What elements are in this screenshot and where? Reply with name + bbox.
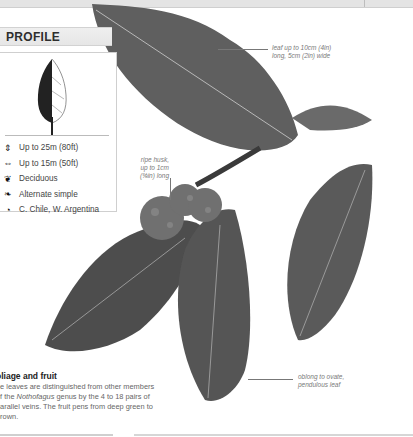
bottom-divider-left (0, 434, 113, 436)
leaf-small-right (292, 105, 372, 130)
height-icon: ⇕ (1, 143, 15, 153)
spread-icon: ⇔ (1, 158, 15, 168)
fact-deciduous: ❦Deciduous (0, 171, 115, 187)
annotation-husk: ripe husk, up to 1cm (⅜in) long (135, 156, 169, 180)
fact-text: Up to 25m (80ft) (19, 143, 78, 152)
leader-line-leaf-size (218, 49, 268, 50)
fact-text: Alternate simple (19, 190, 78, 199)
annotation-leaf-shape: oblong to ovate, pendulous leaf (298, 373, 344, 389)
annotation-line: up to 1cm (135, 164, 169, 172)
fact-text: C. Chile, W. Argentina (19, 205, 99, 214)
fact-range: ◔C. Chile, W. Argentina (0, 202, 115, 218)
fact-text: Deciduous (19, 174, 58, 183)
leaf-right (287, 164, 372, 340)
annotation-line: leaf up to 10cm (4in) (272, 44, 331, 52)
leader-line-husk (170, 178, 171, 200)
genus-name: Nothofagus (17, 392, 55, 401)
foliage-section: oliage and fruit he leaves are distingui… (0, 371, 156, 422)
foliage-title: oliage and fruit (0, 371, 156, 381)
annotation-line: (⅜in) long (135, 172, 169, 180)
fact-spread: ⇔Up to 15m (50ft) (0, 156, 115, 172)
deciduous-leaf-icon: ❦ (1, 174, 15, 184)
leaf-type-icon: ❧ (1, 189, 15, 199)
profile-header: PROFILE (0, 27, 112, 46)
leaf-top (92, 4, 298, 150)
leader-line-leaf-shape (248, 379, 293, 380)
tree-silhouette-icon (27, 57, 77, 135)
annotation-leaf-size: leaf up to 10cm (4in) long, 5cm (2in) wi… (272, 44, 331, 60)
annotation-line: pendulous leaf (298, 381, 344, 389)
bottom-divider-right (134, 434, 413, 436)
fact-height: ⇕Up to 25m (80ft) (0, 140, 115, 156)
profile-box: ⇕Up to 25m (80ft) ⇔Up to 15m (50ft) ❦Dec… (0, 52, 117, 212)
annotation-line: oblong to ovate, (298, 373, 344, 381)
foliage-body: he leaves are distinguished from other m… (0, 382, 156, 422)
annotation-line: long, 5cm (2in) wide (272, 52, 331, 60)
fact-leaf-type: ❧Alternate simple (0, 187, 115, 203)
globe-icon: ◔ (1, 205, 15, 215)
divider (5, 135, 109, 136)
stem (196, 148, 260, 185)
profile-facts: ⇕Up to 25m (80ft) ⇔Up to 15m (50ft) ❦Dec… (0, 140, 115, 218)
annotation-line: ripe husk, (135, 156, 169, 164)
fact-text: Up to 15m (50ft) (19, 159, 78, 168)
profile-title: PROFILE (6, 30, 60, 44)
